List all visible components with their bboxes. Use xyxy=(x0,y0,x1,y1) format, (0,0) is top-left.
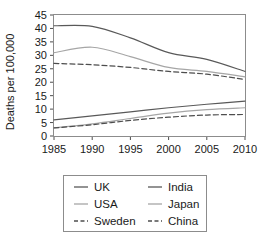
y-tick-label: 35 xyxy=(35,36,47,48)
legend-label-japan: Japan xyxy=(168,198,199,210)
y-tick-label: 40 xyxy=(35,22,47,34)
x-tick-label: 1990 xyxy=(80,143,104,155)
x-tick-label: 2000 xyxy=(156,143,180,155)
legend-label-india: India xyxy=(168,181,194,193)
x-tick-label: 1985 xyxy=(42,143,66,155)
series-line-japan xyxy=(54,108,245,128)
line-chart-figure: Deaths per 100,000 051015202530354045 19… xyxy=(0,0,270,236)
y-tick-label: 45 xyxy=(35,9,47,21)
y-tick-label: 30 xyxy=(35,49,47,61)
chart-legend: UKIndiaUSAJapanSwedenChina xyxy=(0,163,270,236)
plot-area: Deaths per 100,000 051015202530354045 19… xyxy=(0,0,270,165)
series-line-india xyxy=(54,101,245,120)
y-axis-ticks: 051015202530354045 xyxy=(35,9,54,142)
legend-label-china: China xyxy=(168,215,199,227)
series-lines xyxy=(54,25,245,128)
legend-label-usa: USA xyxy=(94,198,118,210)
y-axis-label: Deaths per 100,000 xyxy=(4,34,16,131)
y-tick-label: 20 xyxy=(35,76,47,88)
legend-label-sweden: Sweden xyxy=(94,215,136,227)
legend-label-uk: UK xyxy=(94,181,110,193)
y-tick-label: 0 xyxy=(41,130,47,142)
x-tick-label: 2005 xyxy=(195,143,219,155)
y-tick-label: 5 xyxy=(41,117,47,129)
y-tick-label: 10 xyxy=(35,103,47,115)
series-line-sweden xyxy=(54,63,245,79)
x-axis-ticks: 198519901995200020052010 xyxy=(42,136,257,155)
y-tick-label: 15 xyxy=(35,90,47,102)
x-tick-label: 2010 xyxy=(233,143,257,155)
legend-entries: UKIndiaUSAJapanSwedenChina xyxy=(74,181,199,227)
x-tick-label: 1995 xyxy=(118,143,142,155)
y-tick-label: 25 xyxy=(35,63,47,75)
y-axis-label-text: Deaths per 100,000 xyxy=(4,34,16,131)
plot-svg: Deaths per 100,000 051015202530354045 19… xyxy=(0,0,270,165)
legend-svg: UKIndiaUSAJapanSwedenChina xyxy=(0,163,270,236)
